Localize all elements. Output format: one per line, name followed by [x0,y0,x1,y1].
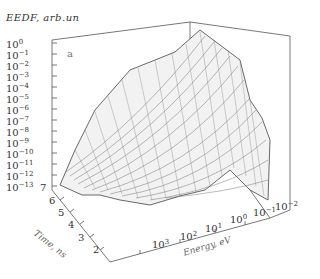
panel-label: a [67,48,73,59]
time-tick: 4 [68,219,74,230]
energy-tick: 101 [205,222,222,234]
energy-tick: 10−2 [275,200,298,212]
energy-tick: 102 [180,230,197,242]
time-tick: 6 [49,195,55,206]
energy-tick: 103 [152,238,169,250]
time-tick: 3 [78,232,84,243]
energy-tick: 10−1 [253,206,276,218]
energy-tick: 100 [230,213,247,225]
time-tick: 2 [93,244,99,255]
time-tick: 5 [58,207,64,218]
time-tick: 7 [40,182,46,193]
